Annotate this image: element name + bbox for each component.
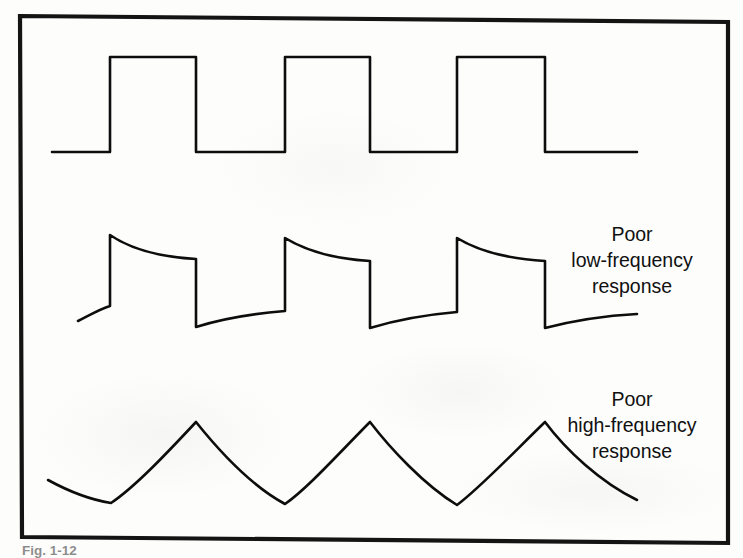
- figure-page: Poor low-frequency response Poor high-fr…: [0, 0, 743, 558]
- poor-low-frequency-label-line3: response: [592, 275, 672, 297]
- figure-canvas: Poor low-frequency response Poor high-fr…: [0, 0, 743, 558]
- poor-low-frequency-trace: [78, 235, 637, 328]
- poor-low-frequency-label: Poor low-frequency response: [571, 223, 693, 297]
- figure-caption-clip: Fig. 1-12: [22, 545, 322, 558]
- poor-low-frequency-label-line1: Poor: [611, 223, 653, 245]
- poor-high-frequency-label-line3: response: [592, 440, 672, 462]
- poor-high-frequency-label: Poor high-frequency response: [568, 388, 697, 462]
- poor-low-frequency-label-line2: low-frequency: [571, 249, 693, 271]
- figure-caption: Fig. 1-12: [22, 545, 77, 558]
- ideal-square-wave-trace: [52, 57, 637, 152]
- poor-high-frequency-trace: [48, 422, 637, 505]
- poor-high-frequency-label-line1: Poor: [611, 388, 653, 410]
- poor-high-frequency-label-line2: high-frequency: [568, 414, 697, 436]
